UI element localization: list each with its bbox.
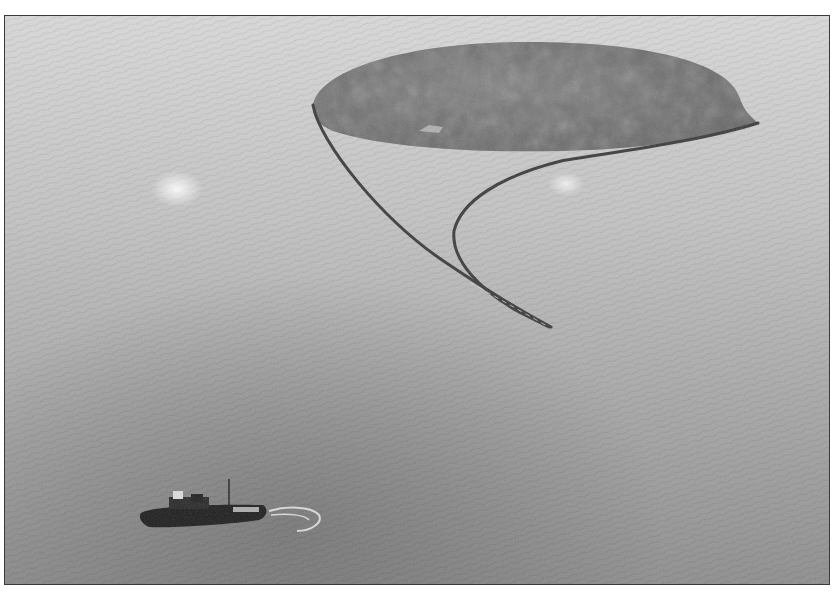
aerial-photo (5, 16, 830, 585)
photo-frame (4, 15, 830, 585)
